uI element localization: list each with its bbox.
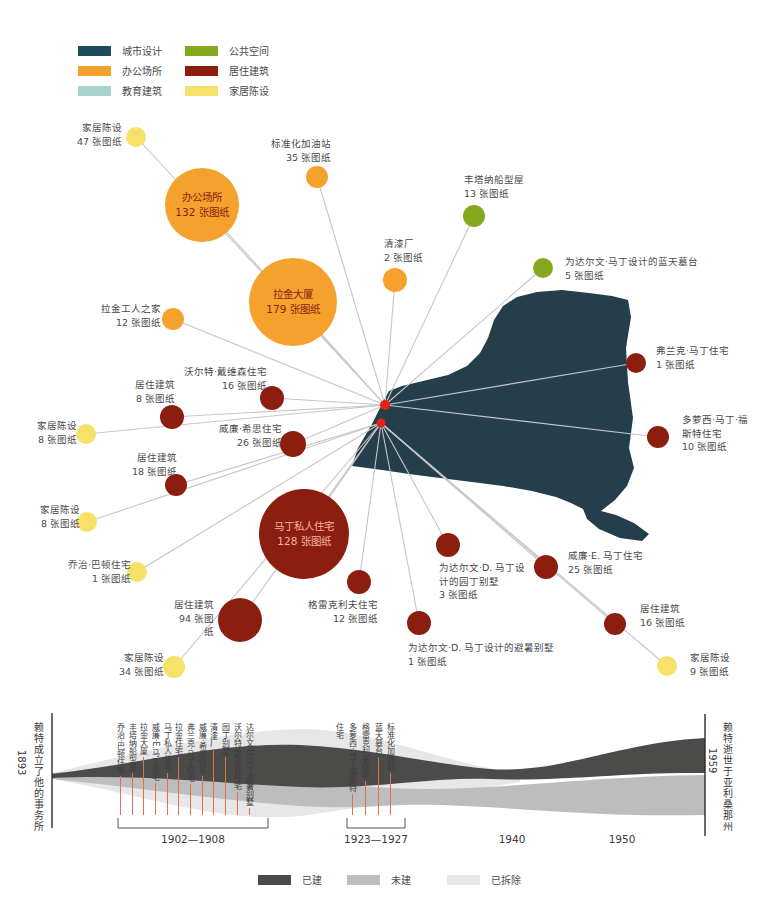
label-william-e-martin-house-25: 威廉·E. 马丁住宅25 张图纸: [568, 549, 663, 576]
residential-swatch: [185, 66, 218, 76]
home-furnishing-swatch: [185, 86, 218, 96]
legend-label: 未建: [391, 872, 411, 887]
tick-line: [202, 776, 203, 815]
legend-item-residential: 居住建筑: [185, 63, 269, 78]
tick-line: [167, 773, 168, 815]
label-fontana-boathouse-13: 丰塔纳船型屋13 张图纸: [464, 173, 554, 200]
label-varnish-factory-2: 清漆厂2 张图纸: [384, 237, 454, 264]
label-residential-94: 居住建筑94 张图纸: [172, 598, 214, 639]
timeline-project-summer-cottage: 达尔文·D.马丁避暑别墅: [243, 723, 255, 815]
bubble-count: 132 张图纸: [175, 205, 228, 220]
legend-label: 公共空间: [229, 43, 269, 58]
bubble-william-e-martin-house-25: [534, 555, 558, 579]
bubble-dorothy-martin-foster-house-10: [647, 426, 669, 448]
timeline-project-dorothy-martin-foster: 多萝西·马丁·福斯特: [346, 723, 358, 815]
bubble-blue-sky-mausoleum-5: [533, 258, 553, 278]
legend-item-public-space: 公共空间: [185, 43, 269, 58]
timeline-project-varnish-factory: 清漆厂: [207, 723, 219, 815]
timeline-end-event-label: 赖特逝世于亚利桑那州: [719, 722, 734, 832]
office-swatch: [78, 66, 111, 76]
label-walter-davidson-house-16: 沃尔特·戴维森住宅16 张图纸: [177, 365, 267, 392]
bubble-residential-8: [160, 405, 184, 429]
tick-line: [225, 757, 226, 815]
unbuilt-swatch: [347, 875, 380, 885]
bubble-name: 马丁私人住宅: [274, 519, 334, 534]
bubble-residential-94: [218, 598, 262, 642]
timeline-end-year: 1959: [707, 748, 718, 773]
label-residential-16: 居住建筑16 张图纸: [640, 602, 700, 629]
tick-line: [249, 808, 250, 815]
bubble-office-spaces-132: 办公场所 132 张图纸: [165, 168, 239, 242]
bubble-name: 拉金大厦: [273, 287, 313, 302]
bubble-count: 128 张图纸: [277, 534, 330, 549]
education-swatch: [78, 86, 111, 96]
urban-design-swatch: [78, 46, 111, 56]
timeline-project-dorothy-wrap: 住宅: [333, 723, 345, 815]
bubble-frank-martin-house-1: [626, 353, 646, 373]
tick-line: [213, 749, 214, 815]
legend-label: 教育建筑: [122, 83, 162, 98]
label-frank-martin-house-1: 弗兰克·马丁住宅1 张图纸: [656, 344, 751, 371]
label-dorothy-martin-foster-house-10: 多萝西·马丁·福斯特住宅10 张图纸: [682, 413, 754, 454]
legend-label: 居住建筑: [229, 63, 269, 78]
legend-item-urban-design: 城市设计: [78, 43, 162, 58]
bubble-larkin-building-179: 拉金大厦 179 张图纸: [249, 258, 337, 346]
bubble-summer-cottage-1: [407, 611, 431, 635]
infographic-canvas: 城市设计 办公场所 教育建筑 公共空间 居住建筑 家居陈设 办公场所 132 张…: [0, 0, 767, 912]
tick-1950: 1950: [597, 833, 647, 845]
tick-line: [178, 757, 179, 815]
label-gardeners-cottage-3: 为达尔文·D. 马丁设计的园丁别墅3 张图纸: [439, 561, 531, 602]
timeline-start-year: 1893: [16, 750, 27, 775]
legend-item-unbuilt: 未建: [347, 872, 411, 887]
bubble-fontana-boathouse-13: [463, 205, 485, 227]
bracket-1902-1908: [118, 818, 268, 828]
legend-label: 已建: [302, 872, 322, 887]
label-home-furnishings-8a: 家居陈设8 张图纸: [33, 419, 77, 446]
bubble-home-furnishings-8b: [77, 512, 97, 532]
tick-line: [190, 784, 191, 815]
label-home-furnishings-34: 家居陈设34 张图纸: [118, 651, 164, 678]
bubble-residential-16: [604, 613, 626, 635]
legend-item-education: 教育建筑: [78, 83, 162, 98]
bubble-home-furnishings-34: [163, 656, 185, 678]
tick-line: [120, 776, 121, 815]
legend-label: 办公场所: [122, 63, 162, 78]
label-home-furnishings-9: 家居陈设9 张图纸: [690, 651, 745, 678]
label-graycliff-house-12: 格雷克利夫住宅12 张图纸: [308, 598, 378, 625]
legend-label: 城市设计: [122, 43, 162, 58]
timeline-project-larkin-building: 拉金大厦: [137, 723, 149, 815]
label-home-furnishings-8b: 家居陈设8 张图纸: [36, 503, 80, 530]
period-1923-1927: 1923—1927: [331, 833, 421, 845]
label-summer-cottage-1: 为达尔文·D. 马丁设计的避暑别墅1 张图纸: [408, 641, 558, 668]
tick-line: [352, 794, 353, 815]
timeline-project-gas-station: 标准化加油站: [384, 723, 396, 815]
legend-item-office: 办公场所: [78, 63, 162, 78]
tick-line: [378, 757, 379, 815]
label-home-furnishings-47: 家居陈设47 张图纸: [48, 121, 122, 148]
label-residential-8: 居住建筑8 张图纸: [115, 378, 175, 405]
legend-item-built: 已建: [258, 872, 322, 887]
demolished-swatch: [447, 875, 480, 885]
tick-line: [143, 757, 144, 815]
timeline-project-blue-sky-mausoleum: 蓝天墓台: [372, 723, 384, 815]
bubble-count: 179 张图纸: [266, 302, 319, 317]
bubble-graycliff-house-12: [347, 570, 371, 594]
tick-line: [237, 792, 238, 815]
legend-label: 已拆除: [491, 872, 521, 887]
tick-line: [365, 781, 366, 815]
built-swatch: [258, 875, 291, 885]
label-residential-18: 居住建筑18 张图纸: [131, 451, 177, 478]
buffalo-south-location-dot: [377, 419, 386, 428]
timeline-project-george-barton: 乔治·巴顿住宅: [114, 723, 126, 815]
timeline-start-event-label: 赖特成立了他的事务所: [30, 722, 45, 832]
bubble-standardized-gas-station-35: [306, 166, 328, 188]
period-1902-1908: 1902—1908: [148, 833, 238, 845]
timeline-project-william-e-martin: 威廉·E.马丁住宅: [149, 723, 161, 815]
tick-line: [132, 773, 133, 815]
bubble-martin-house-128: 马丁私人住宅 128 张图纸: [259, 489, 349, 579]
label-blue-sky-mausoleum-5: 为达尔文·马丁设计的蓝天墓台5 张图纸: [565, 255, 705, 282]
label-george-barton-house-1: 乔治·巴顿住宅1 张图纸: [61, 558, 131, 585]
bracket-1923-1927: [347, 818, 405, 828]
public-space-swatch: [185, 46, 218, 56]
legend-item-demolished: 已拆除: [447, 872, 521, 887]
